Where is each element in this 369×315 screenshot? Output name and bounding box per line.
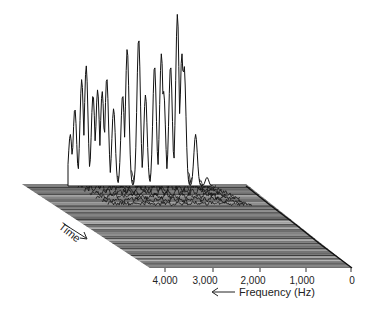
waterfall-chart: 4,000 3,000 2,000 1,000 0 Frequency (Hz)… bbox=[0, 0, 369, 315]
tick-4000: 4,000 bbox=[152, 275, 177, 286]
front-spectrum bbox=[68, 14, 212, 186]
tick-3000: 3,000 bbox=[192, 275, 217, 286]
time-axis: Time bbox=[57, 220, 83, 244]
left-arrow-icon bbox=[212, 288, 235, 296]
frequency-axis: 4,000 3,000 2,000 1,000 0 Frequency (Hz) bbox=[152, 268, 355, 298]
frequency-axis-title: Frequency (Hz) bbox=[239, 286, 315, 298]
base-plane bbox=[0, 184, 369, 269]
tick-1000: 1,000 bbox=[289, 275, 314, 286]
tick-0: 0 bbox=[349, 275, 355, 286]
time-axis-title: Time bbox=[57, 220, 83, 244]
tick-2000: 2,000 bbox=[240, 275, 265, 286]
